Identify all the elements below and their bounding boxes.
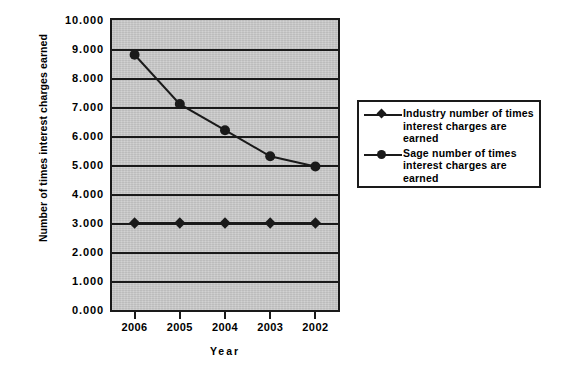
x-tick xyxy=(134,312,136,319)
y-tick-label: 7.000 xyxy=(44,101,104,113)
legend-entry: Sage number of times interest charges ar… xyxy=(363,147,535,185)
x-tick xyxy=(179,312,181,319)
x-tick xyxy=(314,312,316,319)
chart-legend: Industry number of times interest charge… xyxy=(357,100,541,188)
data-point-diamond xyxy=(174,217,185,228)
x-tick xyxy=(269,312,271,319)
data-point-diamond xyxy=(310,217,321,228)
y-tick-label: 1.000 xyxy=(44,275,104,287)
data-point-diamond xyxy=(129,217,140,228)
y-axis-tick-labels: 10.0009.0008.0007.0006.0005.0004.0003.00… xyxy=(44,18,104,312)
y-tick-label: 8.000 xyxy=(44,72,104,84)
legend-marker-circle-icon xyxy=(363,148,403,161)
data-point-circle xyxy=(310,161,320,171)
y-tick-label: 6.000 xyxy=(44,130,104,142)
legend-marker-diamond-icon xyxy=(363,108,403,121)
diamond-icon xyxy=(377,109,387,119)
y-tick-label: 0.000 xyxy=(44,304,104,316)
data-point-circle xyxy=(175,99,185,109)
legend-entry: Industry number of times interest charge… xyxy=(363,107,535,145)
data-point-diamond xyxy=(265,217,276,228)
x-tick-label: 2002 xyxy=(285,321,345,333)
y-tick-label: 10.000 xyxy=(44,14,104,26)
chart-figure: Number of times interest charges earned … xyxy=(0,0,570,372)
data-point-diamond xyxy=(219,217,230,228)
y-tick-label: 2.000 xyxy=(44,246,104,258)
x-axis-title: Year xyxy=(110,345,340,357)
data-point-circle xyxy=(265,151,275,161)
y-tick-label: 4.000 xyxy=(44,188,104,200)
y-tick-label: 3.000 xyxy=(44,217,104,229)
y-tick-label: 9.000 xyxy=(44,43,104,55)
series-line-2 xyxy=(135,55,316,167)
y-tick-label: 5.000 xyxy=(44,159,104,171)
circle-icon xyxy=(377,150,386,159)
legend-label: Industry number of times interest charge… xyxy=(403,107,535,145)
data-point-circle xyxy=(220,125,230,135)
plot-area xyxy=(110,18,340,312)
series-layer xyxy=(112,20,338,310)
x-tick xyxy=(224,312,226,319)
legend-label: Sage number of times interest charges ar… xyxy=(403,147,535,185)
data-point-circle xyxy=(130,50,140,60)
